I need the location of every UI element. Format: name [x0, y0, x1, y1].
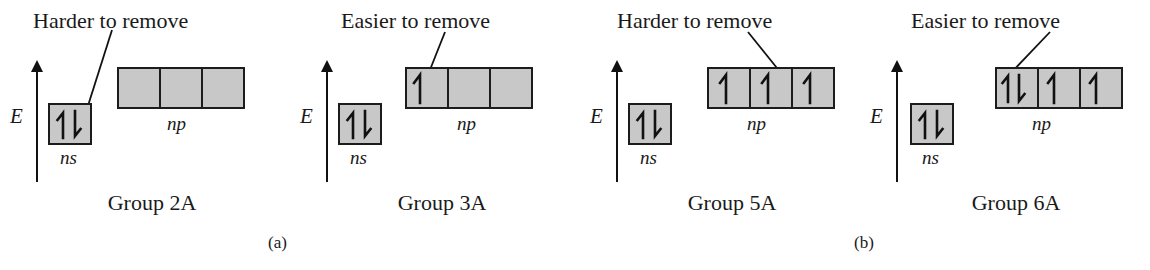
electron-up-icon	[793, 69, 833, 107]
ns-orbital-row	[910, 103, 954, 145]
callout-label: Harder to remove	[33, 10, 188, 32]
np-sublevel-label: np	[167, 114, 186, 133]
panel-group-2a: Harder to remove E ns np Group 2A	[0, 0, 290, 270]
panel-group-6a: Easier to remove E ns	[860, 0, 1150, 270]
electron-up-icon	[407, 69, 447, 107]
group-caption: Group 6A	[926, 192, 1106, 214]
electron-pair-icon	[997, 69, 1037, 107]
np-orbital-row	[995, 67, 1123, 109]
np-orbital-row	[117, 67, 245, 109]
np-orbital-cell	[407, 69, 449, 107]
energy-axis-shaft	[616, 68, 618, 182]
callout-label: Harder to remove	[617, 10, 772, 32]
ns-orbital-cell	[630, 105, 670, 143]
ns-orbital-row	[48, 103, 92, 145]
np-orbital-cell	[751, 69, 793, 107]
part-label-a: (a)	[268, 234, 287, 251]
electron-pair-icon	[340, 105, 380, 143]
ns-orbital-cell	[340, 105, 380, 143]
ns-orbital-row	[628, 103, 672, 145]
callout-label: Easier to remove	[911, 10, 1060, 32]
np-orbital-cell	[491, 69, 531, 107]
group-caption: Group 5A	[642, 192, 822, 214]
panel-group-3a: Easier to remove E ns	[290, 0, 580, 270]
electron-up-icon	[1039, 69, 1079, 107]
energy-axis-label: E	[300, 106, 313, 127]
np-sublevel-label: np	[747, 114, 766, 133]
energy-axis-label: E	[10, 106, 23, 127]
np-orbital-cell	[709, 69, 751, 107]
electron-up-icon	[1081, 69, 1121, 107]
callout-label: Easier to remove	[341, 10, 490, 32]
energy-axis	[610, 60, 624, 182]
electron-pair-icon	[630, 105, 670, 143]
electron-pair-icon	[50, 105, 90, 143]
np-orbital-cell	[203, 69, 243, 107]
ns-orbital-cell	[50, 105, 90, 143]
panel-group-5a: Harder to remove E ns	[580, 0, 870, 270]
energy-axis-shaft	[326, 68, 328, 182]
electron-pair-icon	[912, 105, 952, 143]
ns-sublevel-label: ns	[350, 148, 367, 167]
np-orbital-cell	[997, 69, 1039, 107]
electron-up-icon	[751, 69, 791, 107]
energy-axis-shaft	[896, 68, 898, 182]
group-caption: Group 2A	[62, 192, 242, 214]
ns-sublevel-label: ns	[640, 148, 657, 167]
np-sublevel-label: np	[457, 114, 476, 133]
np-orbital-cell	[161, 69, 203, 107]
np-orbital-cell	[119, 69, 161, 107]
energy-axis	[890, 60, 904, 182]
energy-axis-label: E	[590, 106, 603, 127]
group-caption: Group 3A	[352, 192, 532, 214]
part-label-b: (b)	[854, 234, 874, 251]
np-orbital-row	[707, 67, 835, 109]
np-sublevel-label: np	[1032, 114, 1051, 133]
np-orbital-cell	[793, 69, 833, 107]
energy-axis-label: E	[870, 106, 883, 127]
energy-axis	[30, 60, 44, 182]
electron-up-icon	[709, 69, 749, 107]
np-orbital-cell	[449, 69, 491, 107]
ns-sublevel-label: ns	[922, 148, 939, 167]
ns-orbital-cell	[912, 105, 952, 143]
np-orbital-cell	[1081, 69, 1121, 107]
energy-axis	[320, 60, 334, 182]
np-orbital-cell	[1039, 69, 1081, 107]
orbital-energy-figure: Harder to remove E ns np Group 2A	[0, 0, 1150, 270]
ns-orbital-row	[338, 103, 382, 145]
energy-axis-shaft	[36, 68, 38, 182]
np-orbital-row	[405, 67, 533, 109]
ns-sublevel-label: ns	[60, 148, 77, 167]
